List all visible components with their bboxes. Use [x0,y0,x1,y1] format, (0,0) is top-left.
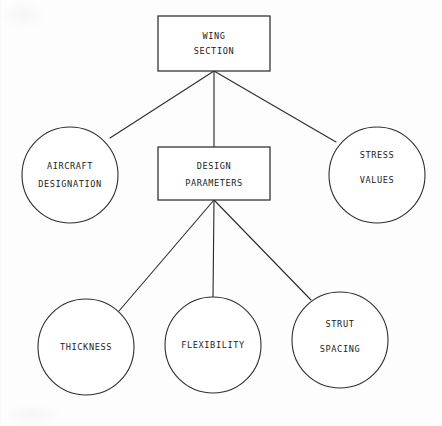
design-parameters-label-line2: PARAMETERS [185,178,243,188]
thickness-label: THICKNESS [60,342,112,352]
node-flexibility[interactable]: FLEXIBILITY [165,297,261,393]
wing-section-box[interactable] [158,16,270,71]
stress-values-label-line1: STRESS [360,150,395,160]
edge-design-to-flexibility [213,200,214,297]
node-stress-values[interactable]: STRESS VALUES [329,127,425,223]
diagram-canvas: WING SECTION AIRCRAFT DESIGNATION DESIGN… [0,0,442,426]
flexibility-label: FLEXIBILITY [181,340,245,350]
edge-design-to-thickness [119,200,214,311]
strut-spacing-label-line2: SPACING [320,344,360,354]
node-strut-spacing[interactable]: STRUT SPACING [292,292,388,388]
strut-spacing-label-line1: STRUT [326,319,355,329]
strut-spacing-circle[interactable] [292,292,388,388]
edge-design-to-strut [214,200,311,300]
wing-section-label-line1: WING [202,31,225,41]
node-design-parameters[interactable]: DESIGN PARAMETERS [158,147,270,200]
node-wing-section[interactable]: WING SECTION [158,16,270,71]
wing-section-label-line2: SECTION [194,46,234,56]
design-parameters-label-line1: DESIGN [197,161,232,171]
aircraft-designation-circle[interactable] [22,127,118,223]
node-thickness[interactable]: THICKNESS [38,299,134,395]
aircraft-designation-label-line2: DESIGNATION [38,179,102,189]
design-parameters-box[interactable] [158,147,270,200]
edge-wing-to-aircraft [110,71,214,138]
aircraft-designation-label-line1: AIRCRAFT [47,161,93,171]
edge-wing-to-stress [214,71,336,142]
diagram-svg: WING SECTION AIRCRAFT DESIGNATION DESIGN… [0,0,442,426]
node-aircraft-designation[interactable]: AIRCRAFT DESIGNATION [22,127,118,223]
stress-values-label-line2: VALUES [360,175,395,185]
